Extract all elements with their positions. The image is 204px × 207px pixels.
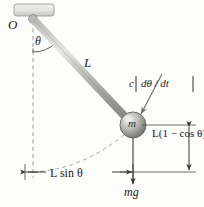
pendulum-diagram: O θ L m cdθ / dt L(1 − cos θ) L sin θ mg [0,0,204,207]
vertical-rise-label: L(1 − cos θ) [152,128,204,139]
mass-label: m [128,118,136,129]
horizontal-offset-label: L sin θ [50,167,83,179]
damping-coefficient-label: c [129,77,134,89]
angle-label: θ [35,35,41,47]
ceiling-support [14,4,54,16]
pivot-label: O [8,18,17,31]
angular-rate-label: dθ / dt [141,77,169,89]
weight-label: mg [124,186,139,198]
damping-force-label: cdθ / dt [129,78,169,89]
pendulum-rod [33,19,133,125]
rod-length-label: L [84,56,91,69]
